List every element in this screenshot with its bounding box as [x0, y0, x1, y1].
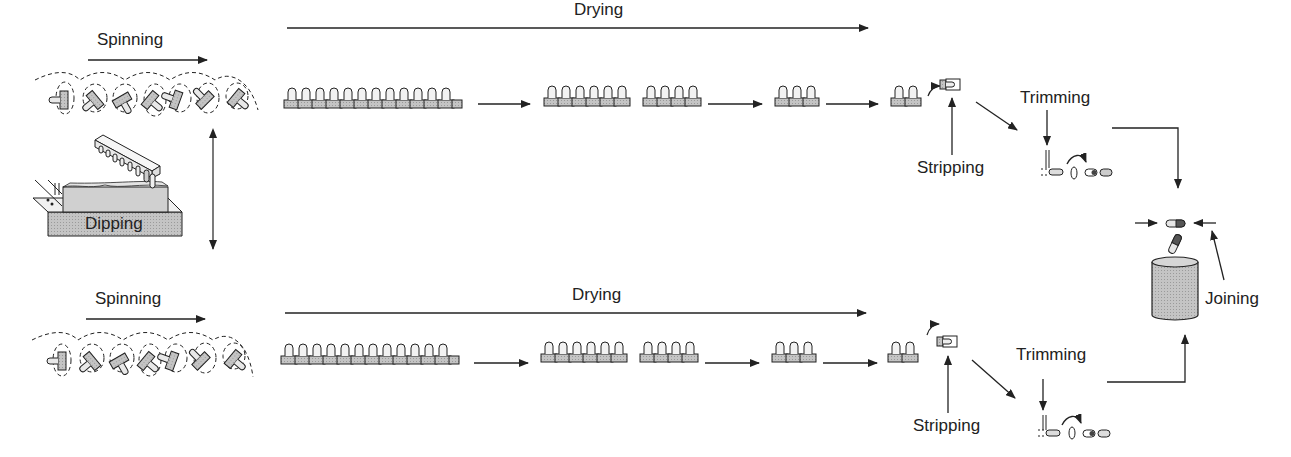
pin-bar-12	[281, 344, 459, 364]
trimming-icon	[1041, 150, 1112, 179]
falling-capsule-icon	[1168, 233, 1183, 254]
to-joining-arrow	[1112, 128, 1178, 188]
row-cap	[35, 28, 1178, 188]
pin-bar-2	[888, 342, 918, 362]
trimming-label-body: Trimming	[1016, 345, 1086, 365]
joined-capsule-icon	[1166, 220, 1185, 227]
flow-arrow	[976, 102, 1017, 130]
row-body	[32, 313, 1185, 439]
pin-bar-3	[772, 342, 816, 362]
pin-bar-6	[541, 342, 627, 362]
pin-bar-4	[640, 342, 698, 362]
capsule-process-diagram	[0, 0, 1291, 457]
flow-arrow	[972, 360, 1015, 398]
drying-label-cap: Drying	[574, 0, 623, 20]
trimming-icon	[1038, 415, 1110, 439]
pin-bar-4	[643, 86, 701, 106]
drying-label-body: Drying	[572, 285, 621, 305]
stripping-icon	[928, 79, 960, 96]
joining-label: Joining	[1205, 289, 1259, 309]
stripping-label-body: Stripping	[913, 416, 980, 436]
spinning-label-body: Spinning	[95, 289, 161, 309]
collection-bin	[1152, 257, 1198, 320]
spinning-label-cap: Spinning	[97, 30, 163, 50]
stripping-label-cap: Stripping	[917, 158, 984, 178]
pin-bar-3	[775, 86, 819, 106]
stripping-icon	[927, 324, 957, 347]
to-joining-arrow	[1107, 335, 1185, 382]
pin-bar-2	[891, 86, 921, 106]
spinning-pins	[35, 73, 258, 118]
trimming-label-cap: Trimming	[1020, 88, 1090, 108]
pin-bar-12	[284, 88, 462, 108]
pin-bar-6	[544, 86, 630, 106]
spinning-pins	[32, 333, 253, 379]
dipping-label: Dipping	[85, 214, 143, 234]
